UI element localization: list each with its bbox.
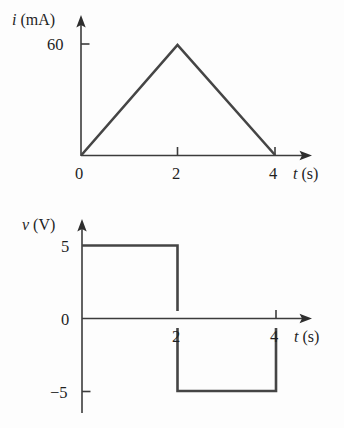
bottom-chart-group: v(V) 5 0 −5 2 4 t(s) [22, 216, 319, 413]
top-chart-x-axis-label-unit: (s) [301, 165, 318, 183]
bottom-chart-waveform-high-segment [82, 246, 178, 312]
top-chart-xtick-2-label: 2 [172, 164, 180, 183]
bottom-chart-x-axis-label-unit: (s) [302, 328, 319, 346]
top-chart-y-axis-label: i(mA) [12, 11, 55, 29]
bottom-chart-x-axis-label-symbol: t [294, 328, 299, 345]
top-chart-xtick-4-label: 4 [269, 164, 277, 183]
bottom-chart-ytick-5-label: 5 [61, 237, 69, 256]
bottom-chart-ytick-0-label: 0 [61, 310, 69, 329]
bottom-chart-waveform-low-segment [178, 328, 277, 391]
bottom-chart-xtick-2-label: 2 [172, 327, 180, 346]
top-chart-x-axis-label: t(s) [293, 165, 318, 183]
top-chart-xtick-0-label: 0 [75, 164, 83, 183]
top-chart-x-axis-label-symbol: t [293, 165, 298, 182]
bottom-chart-xtick-4-label: 4 [270, 327, 278, 346]
top-chart-ytick-60-label: 60 [47, 35, 64, 54]
bottom-chart-x-axis-label: t(s) [294, 328, 319, 346]
bottom-chart-ytick-neg5-label: −5 [50, 383, 68, 402]
top-chart-waveform-line [82, 45, 276, 155]
bottom-chart-y-axis-label: v(V) [22, 216, 55, 234]
top-chart-y-axis-label-unit: (mA) [20, 11, 55, 29]
top-chart-y-axis-label-symbol: i [12, 11, 16, 28]
figure-container: i(mA) 60 0 2 4 t(s) [0, 0, 344, 428]
bottom-chart-y-axis-label-unit: (V) [33, 216, 55, 234]
bottom-chart-y-axis-label-symbol: v [22, 216, 30, 233]
top-chart-group: i(mA) 60 0 2 4 t(s) [12, 11, 318, 183]
waveform-figure: i(mA) 60 0 2 4 t(s) [0, 0, 344, 428]
